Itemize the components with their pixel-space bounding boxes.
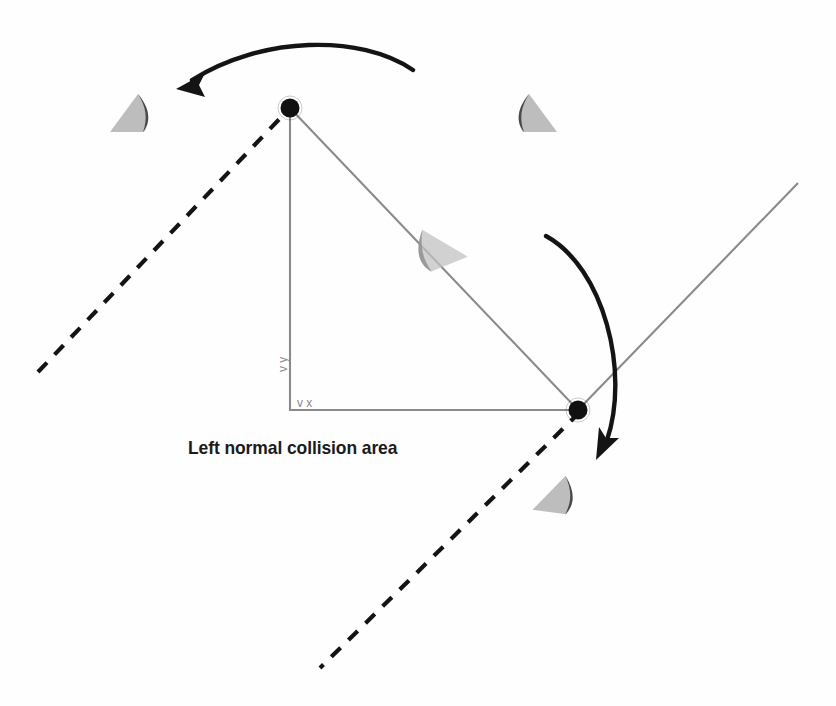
vx-axis-label: v x [297,396,312,410]
curved-arrow-top-shaft [192,45,413,80]
vy-axis-label: v y [276,357,290,372]
collision-area-label: Left normal collision area [188,437,397,459]
flick-marker-lower-right [533,472,576,515]
curved-arrow-right [546,236,619,460]
node-lower-right [566,398,590,422]
node-upper [278,96,302,120]
flick-marker-center [410,218,468,274]
dashed-boundary-lines [38,110,580,668]
flick-marker-upper-right [519,94,557,132]
dashed-line-upper-left [38,110,288,372]
collision-diagram [0,0,836,706]
surface-line [578,183,798,410]
curved-arrow-top [176,45,413,97]
curved-arrow-top-head [176,73,205,97]
figure-canvas: Left normal collision area v y v x [0,0,836,706]
flick-marker-upper-left [110,94,148,132]
